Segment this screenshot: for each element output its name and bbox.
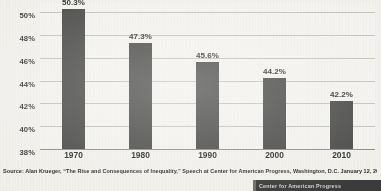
bar-chart-figure: 38%40%42%44%46%48%50% 50.3%47.3%45.6%44.… (0, 0, 381, 191)
y-tick-label: 48% (20, 33, 36, 42)
plot-area: 50.3%47.3%45.6%44.2%42.2% (40, 3, 375, 149)
y-axis-tick-labels: 38%40%42%44%46%48%50% (0, 3, 40, 149)
x-tick-label-1990: 1990 (198, 150, 217, 160)
bar-group-2000[interactable]: 44.2% (263, 3, 285, 149)
bar-value-label-1980: 47.3% (129, 32, 152, 41)
bar-1990[interactable] (196, 62, 218, 149)
bar-group-1980[interactable]: 47.3% (129, 3, 151, 149)
x-axis-tick-labels: 19701980199020002010 (40, 150, 375, 164)
source-note: Source: Alan Krueger, “The Rise and Cons… (3, 168, 377, 174)
y-tick-label: 40% (20, 125, 36, 134)
logo-accent-bar (253, 180, 256, 191)
bar-1980[interactable] (129, 43, 151, 149)
x-tick-label-1970: 1970 (64, 150, 83, 160)
bar-value-label-1990: 45.6% (196, 51, 219, 60)
bar-value-label-1970: 50.3% (62, 0, 85, 7)
x-tick-label-2000: 2000 (265, 150, 284, 160)
bar-group-2010[interactable]: 42.2% (330, 3, 352, 149)
cap-logo-bar: Center for American Progress (253, 180, 381, 191)
bar-group-1970[interactable]: 50.3% (62, 3, 84, 149)
y-tick-label: 38% (20, 148, 36, 157)
bar-value-label-2010: 42.2% (330, 90, 353, 99)
logo-text: Center for American Progress (259, 183, 341, 189)
bar-2010[interactable] (330, 101, 352, 149)
bar-1970[interactable] (62, 9, 84, 149)
bar-group-1990[interactable]: 45.6% (196, 3, 218, 149)
y-tick-label: 42% (20, 102, 36, 111)
bar-2000[interactable] (263, 78, 285, 149)
y-tick-label: 50% (20, 11, 36, 20)
y-tick-label: 44% (20, 79, 36, 88)
x-tick-label-2010: 2010 (332, 150, 351, 160)
x-tick-label-1980: 1980 (131, 150, 150, 160)
y-tick-label: 46% (20, 56, 36, 65)
bar-value-label-2000: 44.2% (263, 67, 286, 76)
bars-layer: 50.3%47.3%45.6%44.2%42.2% (40, 3, 375, 149)
